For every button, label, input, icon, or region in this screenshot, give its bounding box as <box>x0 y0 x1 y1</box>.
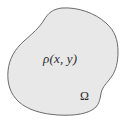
region-figure: ρ(x, y) Ω <box>0 0 131 131</box>
density-function-label: ρ(x, y) <box>43 52 77 65</box>
domain-omega-label: Ω <box>80 90 89 102</box>
